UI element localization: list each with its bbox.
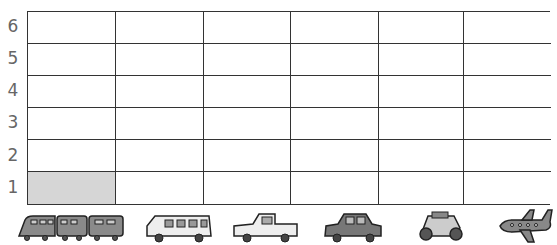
motorcycle-icon xyxy=(414,206,466,244)
train-icon xyxy=(15,206,128,244)
grid-cell-train-6 xyxy=(28,12,116,44)
y-label-5: 5 xyxy=(6,50,20,67)
grid-cell-train-5 xyxy=(28,44,116,76)
grid-cell-train-2 xyxy=(28,140,116,172)
grid-cell-motorcycle-6 xyxy=(379,12,464,44)
grid-cell-train-4 xyxy=(28,76,116,108)
grid-cell-pickup-truck-2 xyxy=(204,140,291,172)
grid-cell-van-3 xyxy=(116,108,204,140)
grid-cell-motorcycle-2 xyxy=(379,140,464,172)
grid-cell-airplane-2 xyxy=(464,140,551,172)
grid-cell-motorcycle-1 xyxy=(379,172,464,204)
grid-cell-car-1 xyxy=(291,172,379,204)
y-label-6: 6 xyxy=(6,18,20,35)
airplane-icon xyxy=(498,206,554,244)
grid-cell-car-5 xyxy=(291,44,379,76)
grid-cell-train-3 xyxy=(28,108,116,140)
grid-cell-airplane-1 xyxy=(464,172,551,204)
y-label-3: 3 xyxy=(6,114,20,131)
grid-cell-van-1 xyxy=(116,172,204,204)
grid-cell-motorcycle-3 xyxy=(379,108,464,140)
grid-cell-car-2 xyxy=(291,140,379,172)
grid-cell-van-5 xyxy=(116,44,204,76)
grid-cell-car-3 xyxy=(291,108,379,140)
pictograph-grid xyxy=(27,11,550,205)
grid-cell-pickup-truck-1 xyxy=(204,172,291,204)
grid-cell-airplane-4 xyxy=(464,76,551,108)
grid-cell-pickup-truck-4 xyxy=(204,76,291,108)
car-icon xyxy=(322,206,384,244)
grid-cell-pickup-truck-6 xyxy=(204,12,291,44)
y-label-2: 2 xyxy=(6,147,20,164)
grid-cell-airplane-3 xyxy=(464,108,551,140)
grid-cell-van-2 xyxy=(116,140,204,172)
van-icon xyxy=(143,206,215,244)
grid-cell-airplane-5 xyxy=(464,44,551,76)
grid-cell-car-6 xyxy=(291,12,379,44)
y-label-1: 1 xyxy=(6,179,20,196)
grid-cell-car-4 xyxy=(291,76,379,108)
grid-cell-pickup-truck-5 xyxy=(204,44,291,76)
pickup-truck-icon xyxy=(231,206,301,244)
grid-cell-van-4 xyxy=(116,76,204,108)
grid-cell-pickup-truck-3 xyxy=(204,108,291,140)
grid-cell-train-1 xyxy=(28,172,116,204)
grid-cell-airplane-6 xyxy=(464,12,551,44)
y-label-4: 4 xyxy=(6,82,20,99)
grid-cell-motorcycle-5 xyxy=(379,44,464,76)
grid-cell-motorcycle-4 xyxy=(379,76,464,108)
grid-cell-van-6 xyxy=(116,12,204,44)
